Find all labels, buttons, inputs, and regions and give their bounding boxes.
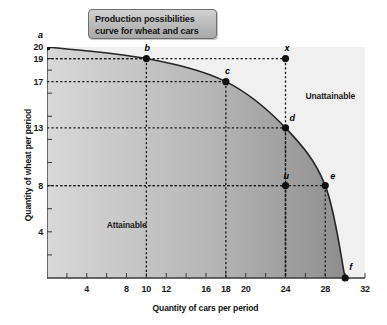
data-point-e[interactable] xyxy=(322,182,329,189)
data-point-f[interactable] xyxy=(342,274,349,281)
x-tick-label-20: 20 xyxy=(235,284,257,294)
y-tick-label-20: 20 xyxy=(21,42,43,52)
chart-title-line-2: curve for wheat and cars xyxy=(95,25,210,37)
region-label-unattainable: Unattainable xyxy=(305,91,355,101)
y-tick-label-8: 8 xyxy=(21,181,43,191)
y-tick-label-17: 17 xyxy=(21,77,43,87)
x-tick-label-16: 16 xyxy=(195,284,217,294)
x-tick-label-12: 12 xyxy=(155,284,177,294)
plot-area xyxy=(47,47,365,278)
data-point-d[interactable] xyxy=(282,124,289,131)
x-tick-label-28: 28 xyxy=(314,284,336,294)
point-label-e: e xyxy=(330,171,335,181)
point-label-a: a xyxy=(38,30,43,40)
point-label-f: f xyxy=(349,262,352,272)
y-tick-label-13: 13 xyxy=(21,123,43,133)
x-tick-label-24: 24 xyxy=(275,284,297,294)
x-tick-label-18: 18 xyxy=(215,284,237,294)
chart-title-callout: Production possibilities curve for wheat… xyxy=(88,9,217,39)
point-label-c: c xyxy=(225,66,230,76)
point-label-u: u xyxy=(284,171,289,181)
region-label-attainable: Attainable xyxy=(107,220,147,230)
figure-production-possibilities-curve: Production possibilities curve for wheat… xyxy=(0,0,387,325)
point-label-b: b xyxy=(144,43,149,53)
x-tick-label-8: 8 xyxy=(116,284,138,294)
point-label-d: d xyxy=(290,113,295,123)
point-label-x: x xyxy=(285,43,290,53)
chart-title-line-1: Production possibilities xyxy=(95,13,210,25)
x-tick-label-32: 32 xyxy=(354,284,376,294)
data-point-u[interactable] xyxy=(282,182,289,189)
x-axis-title: Quantity of cars per period xyxy=(45,303,366,313)
y-tick-label-19: 19 xyxy=(21,54,43,64)
data-point-x[interactable] xyxy=(282,55,289,62)
x-tick-label-4: 4 xyxy=(76,284,98,294)
data-point-c[interactable] xyxy=(222,78,229,85)
x-tick-label-10: 10 xyxy=(135,284,157,294)
data-point-b[interactable] xyxy=(143,55,150,62)
y-tick-label-4: 4 xyxy=(21,227,43,237)
